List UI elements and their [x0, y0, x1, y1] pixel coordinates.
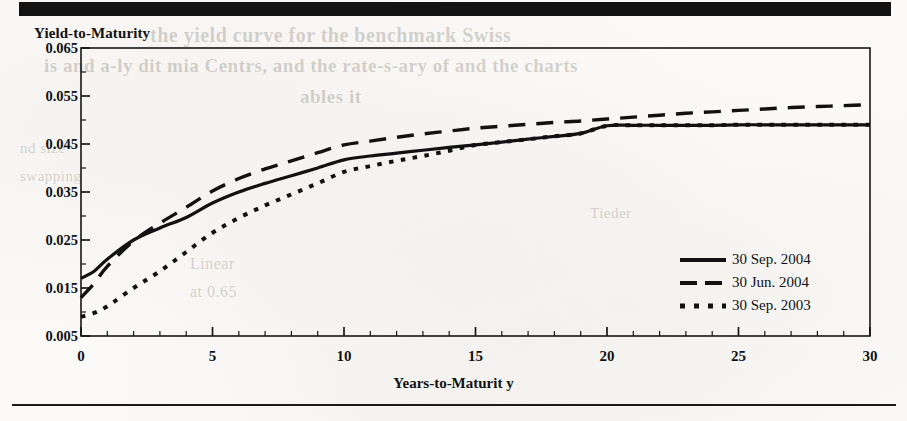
- y-tick-label: 0.015: [16, 280, 78, 297]
- x-tick-label: 25: [731, 348, 746, 365]
- x-tick-label: 0: [77, 348, 85, 365]
- y-tick-label: 0.055: [16, 88, 78, 105]
- y-tick-label: 0.035: [16, 184, 78, 201]
- legend-label: 30 Sep. 2004: [732, 251, 811, 268]
- x-tick-label: 30: [863, 348, 878, 365]
- x-axis-title: Years-to-Maturit y: [0, 375, 907, 392]
- yield-curve-chart: Yield-to-Maturity Years-to-Maturit y 0.0…: [0, 0, 907, 421]
- x-tick-label: 20: [600, 348, 615, 365]
- plot-canvas: [0, 0, 907, 421]
- legend-label: 30 Jun. 2004: [732, 274, 809, 291]
- y-tick-label: 0.065: [16, 40, 78, 57]
- legend-swatch-dotted-icon: [680, 300, 726, 312]
- x-tick-label: 5: [209, 348, 217, 365]
- y-tick-label: 0.025: [16, 232, 78, 249]
- y-axis-tick-labels: 0.0050.0150.0250.0350.0450.0550.065: [12, 0, 78, 421]
- x-tick-label: 15: [468, 348, 483, 365]
- legend-label: 30 Sep. 2003: [732, 297, 811, 314]
- legend-item[interactable]: 30 Sep. 2003: [680, 294, 811, 317]
- y-tick-label: 0.045: [16, 136, 78, 153]
- y-tick-label: 0.005: [16, 328, 78, 345]
- legend-swatch-dashed-icon: [680, 277, 726, 289]
- x-tick-label: 10: [337, 348, 352, 365]
- scanned-figure-page: the yield curve for the benchmark Swiss …: [0, 0, 907, 421]
- legend-swatch-solid-icon: [680, 254, 726, 266]
- legend-item[interactable]: 30 Sep. 2004: [680, 248, 811, 271]
- x-axis-ticks: [81, 327, 870, 336]
- legend-item[interactable]: 30 Jun. 2004: [680, 271, 811, 294]
- chart-legend: 30 Sep. 200430 Jun. 200430 Sep. 2003: [680, 248, 811, 317]
